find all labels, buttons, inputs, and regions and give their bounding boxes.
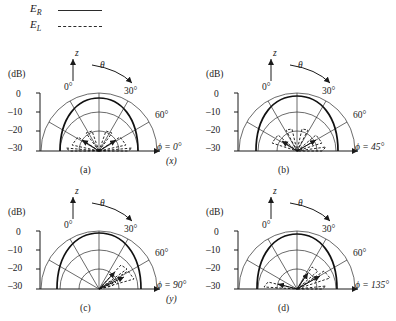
angle-tick-30-c: 30° — [124, 225, 137, 235]
db-tick-0-b: 0 — [214, 90, 219, 100]
polar-plot-panel-b: (dB) 0 –10 –20 –30 z θ 0° 30° 60° ϕ = 45… — [198, 45, 396, 183]
db-tick-10-d: –10 — [206, 246, 220, 256]
legend-entry-er: ER — [30, 2, 102, 18]
radiation-pattern-figure: ER EL — [0, 0, 396, 321]
angle-tick-0-b: 0° — [262, 83, 271, 93]
panel-caption-c: (c) — [80, 303, 91, 313]
db-tick-30-b: –30 — [206, 144, 220, 154]
angle-tick-60-d: 60° — [353, 249, 366, 259]
z-axis-label-d: z — [273, 187, 277, 197]
z-axis-label-a: z — [75, 49, 79, 59]
axis-direction-label-a: (x) — [166, 157, 177, 167]
db-tick-20-b: –20 — [206, 126, 220, 136]
angle-tick-60-b: 60° — [353, 111, 366, 121]
axis-direction-label-c: (y) — [166, 295, 177, 305]
phi-label-d: ϕ = 135° — [355, 281, 389, 291]
db-axis-label-c: (dB) — [8, 208, 25, 218]
panel-caption-a: (a) — [80, 165, 91, 175]
db-axis-label-a: (dB) — [8, 70, 25, 80]
db-tick-0-d: 0 — [214, 228, 219, 238]
phi-label-c: ϕ = 90° — [157, 281, 186, 291]
legend-entry-el: EL — [30, 18, 102, 34]
db-tick-30-c: –30 — [8, 282, 22, 292]
angle-tick-0-c: 0° — [64, 221, 73, 231]
angle-tick-30-b: 30° — [322, 87, 335, 97]
db-tick-30-a: –30 — [8, 144, 22, 154]
db-tick-10-a: –10 — [8, 108, 22, 118]
angle-tick-60-a: 60° — [155, 111, 168, 121]
db-tick-20-d: –20 — [206, 264, 220, 274]
db-tick-10-c: –10 — [8, 246, 22, 256]
angle-tick-30-d: 30° — [322, 225, 335, 235]
theta-label-a: θ — [100, 61, 105, 71]
panel-caption-d: (d) — [278, 303, 289, 313]
theta-label-d: θ — [298, 199, 303, 209]
angle-tick-30-a: 30° — [124, 87, 137, 97]
polar-plot-panel-a: (dB) 0 –10 –20 –30 z θ 0° 30° 60° ϕ = 0°… — [0, 45, 198, 183]
z-axis-label-b: z — [273, 49, 277, 59]
polar-plot-panel-c: (dB) 0 –10 –20 –30 z θ 0° 30° 60° ϕ = 90… — [0, 183, 198, 321]
legend-symbol-el: EL — [30, 18, 56, 33]
db-tick-30-d: –30 — [206, 282, 220, 292]
angle-tick-0-d: 0° — [262, 221, 271, 231]
angle-tick-60-c: 60° — [155, 249, 168, 259]
db-tick-10-b: –10 — [206, 108, 220, 118]
theta-label-c: θ — [100, 199, 105, 209]
phi-label-b: ϕ = 45° — [355, 143, 384, 153]
theta-label-b: θ — [298, 61, 303, 71]
panel-caption-b: (b) — [278, 165, 289, 175]
figure-legend: ER EL — [30, 2, 102, 34]
db-tick-20-c: –20 — [8, 264, 22, 274]
polar-plot-panel-d: (dB) 0 –10 –20 –30 z θ 0° 30° 60° ϕ = 13… — [198, 183, 396, 321]
legend-line-solid-icon — [58, 10, 102, 11]
db-axis-label-d: (dB) — [206, 208, 223, 218]
angle-tick-0-a: 0° — [64, 83, 73, 93]
db-tick-0-c: 0 — [16, 228, 21, 238]
db-tick-20-a: –20 — [8, 126, 22, 136]
db-tick-0-a: 0 — [16, 90, 21, 100]
legend-line-dashed-icon — [58, 26, 102, 27]
legend-symbol-er: ER — [30, 2, 56, 17]
z-axis-label-c: z — [75, 187, 79, 197]
phi-label-a: ϕ = 0° — [157, 143, 182, 153]
db-axis-label-b: (dB) — [206, 70, 223, 80]
